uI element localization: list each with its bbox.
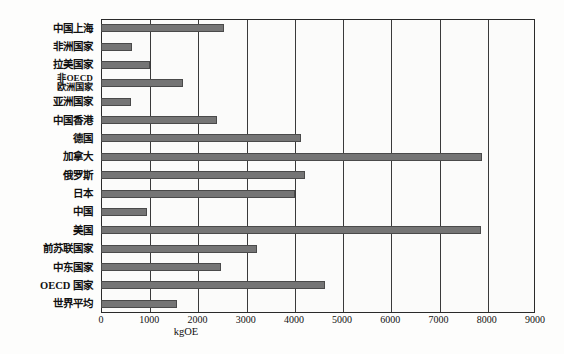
bar [101,245,257,253]
x-tick-label: 5000 [332,314,352,325]
category-label: 世界平均 [0,295,97,313]
bar-row [101,129,535,147]
bar [101,61,150,69]
bar [101,226,481,234]
bar [101,98,131,106]
bar [101,281,325,289]
bar [101,263,221,271]
x-tick-label: 7000 [429,314,449,325]
bar-row [101,276,535,294]
bar-row [101,221,535,239]
bar [101,79,183,87]
category-label: 美国 [0,221,97,239]
bar [101,190,295,198]
x-tick-label: 6000 [380,314,400,325]
bar [101,134,301,142]
category-label: 中国上海 [0,19,97,37]
category-axis-labels: 中国上海非洲国家拉美国家非OECD 欧洲国家亚洲国家中国香港德国加拿大俄罗斯日本… [0,19,97,313]
category-label: 中国香港 [0,111,97,129]
bar-row [101,19,535,37]
x-axis-title: kgOE [0,326,564,337]
category-label: 加拿大 [0,148,97,166]
bar-row [101,111,535,129]
category-label: 德国 [0,129,97,147]
bar-row [101,74,535,92]
category-label: OECD 国家 [0,276,97,294]
x-tick-label: 8000 [477,314,497,325]
bar [101,208,147,216]
bar [101,116,217,124]
bar-row [101,203,535,221]
category-label: 中东国家 [0,258,97,276]
bar-row [101,37,535,55]
x-axis-title-text: kgOE [174,326,199,337]
bar-row [101,166,535,184]
bar [101,24,224,32]
bar-row [101,56,535,74]
bar-row [101,295,535,313]
category-label: 日本 [0,184,97,202]
x-tick-label: 0 [99,314,104,325]
category-label: 前苏联国家 [0,240,97,258]
category-label: 中国 [0,203,97,221]
bars-layer [101,19,535,313]
bar-row [101,240,535,258]
x-tick-label: 2000 [187,314,207,325]
x-tick-label: 9000 [525,314,545,325]
bar [101,43,132,51]
x-tick-label: 4000 [284,314,304,325]
bar-row [101,148,535,166]
x-tick-label: 3000 [236,314,256,325]
category-label: 俄罗斯 [0,166,97,184]
category-label: 非OECD 欧洲国家 [0,74,97,92]
bar-row [101,184,535,202]
bar-row [101,258,535,276]
category-label: 拉美国家 [0,56,97,74]
category-label: 亚洲国家 [0,93,97,111]
bar-row [101,93,535,111]
x-tick-label: 1000 [139,314,159,325]
bar [101,300,177,308]
bar-chart: 中国上海非洲国家拉美国家非OECD 欧洲国家亚洲国家中国香港德国加拿大俄罗斯日本… [0,0,564,354]
bar [101,171,305,179]
category-label: 非洲国家 [0,37,97,55]
bar [101,153,482,161]
